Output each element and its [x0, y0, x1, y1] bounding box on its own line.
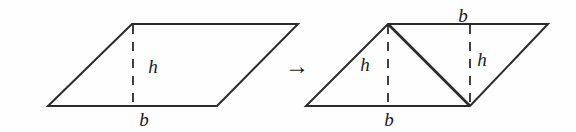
left-parallelogram-group: [48, 24, 298, 106]
right-parallelogram-group: [306, 24, 548, 106]
diagonal-split-line: [388, 24, 470, 106]
geometry-figure: → h b h h b b: [0, 0, 576, 132]
right-base-label-bottom: b: [384, 110, 394, 129]
left-height-label: h: [148, 57, 158, 76]
left-parallelogram-outline: [48, 24, 298, 106]
right-height-label-left: h: [360, 55, 370, 74]
right-base-label-top: b: [458, 6, 468, 25]
right-parallelogram-outline: [306, 24, 548, 106]
right-height-label-right: h: [477, 50, 487, 69]
left-base-label: b: [139, 110, 149, 129]
transform-arrow-icon: →: [285, 54, 309, 78]
